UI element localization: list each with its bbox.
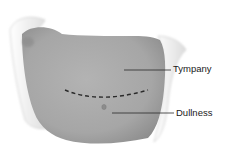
chest-shadow <box>22 37 34 47</box>
abdomen-illustration <box>0 0 228 151</box>
abdomen-percussion-diagram: Tympany Dullness <box>0 0 228 151</box>
abdomen-body <box>22 27 165 143</box>
umbilicus-icon <box>102 104 106 109</box>
tympany-label: Tympany <box>173 64 212 74</box>
dullness-label: Dullness <box>176 108 212 118</box>
